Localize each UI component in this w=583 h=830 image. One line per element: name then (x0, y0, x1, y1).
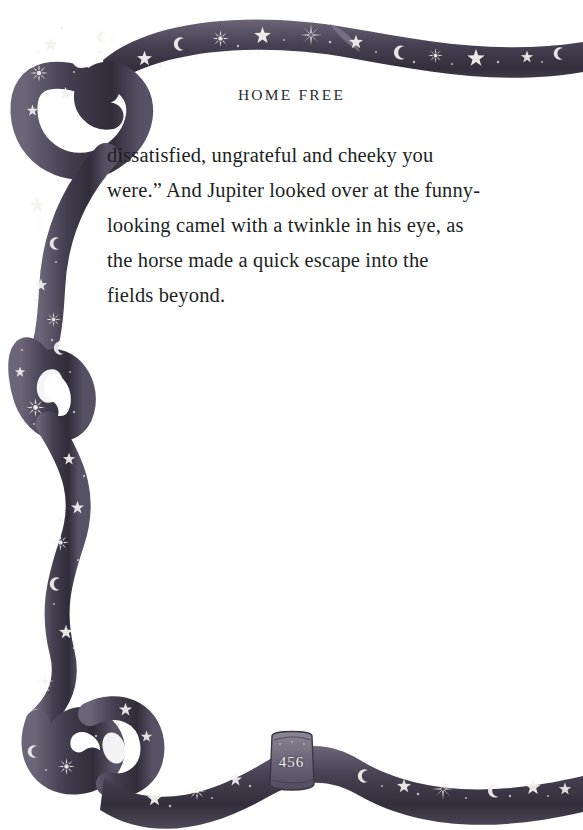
ribbon-left-upper-wave (29, 156, 106, 362)
page-number: 456 (0, 754, 583, 771)
running-head: HOME FREE (0, 86, 583, 104)
ribbon-left-loop (15, 341, 84, 428)
body-text-block: dissatisfied, ungrateful and cheeky you … (107, 138, 485, 313)
body-line: fields beyond. (107, 278, 485, 313)
ribbon-left-lower-wave (30, 424, 85, 722)
body-line: were.” And Jupiter looked over at the fu… (107, 173, 485, 208)
ribbon-bottom-left-curl (28, 703, 153, 786)
body-line: the horse made a quick escape into the (107, 243, 485, 278)
ribbon-top-band (103, 19, 583, 90)
body-line: looking camel with a twinkle in his eye,… (107, 208, 485, 243)
body-line: dissatisfied, ungrateful and cheeky you (107, 138, 485, 173)
book-page: HOME FREE dissatisfied, ungrateful and c… (0, 0, 583, 830)
celestial-ribbon-border (0, 0, 583, 830)
